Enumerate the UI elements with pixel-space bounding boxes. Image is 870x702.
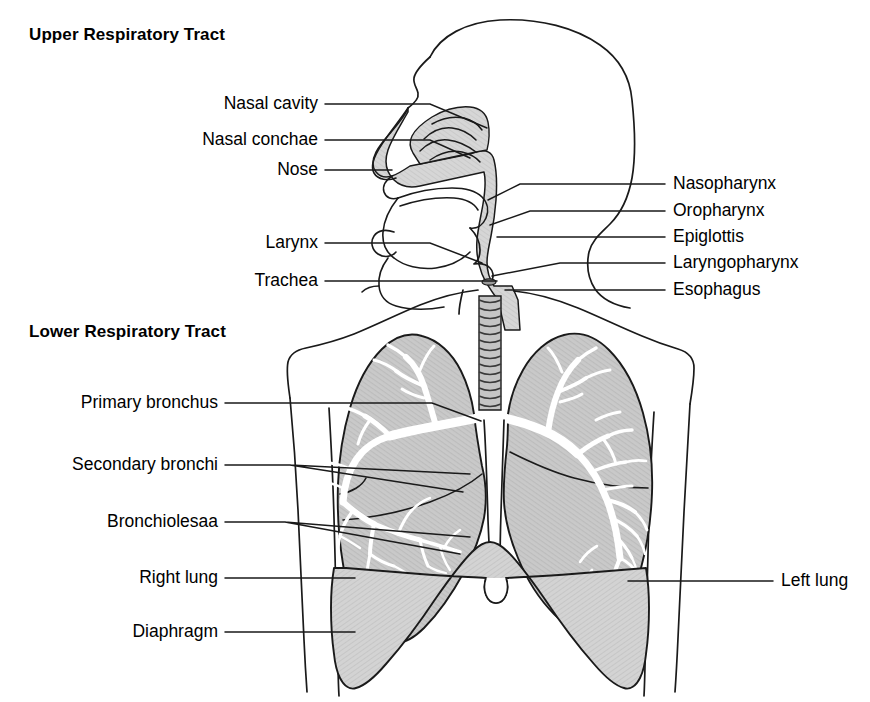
leader-line-nasopharynx — [488, 184, 665, 200]
label-primary-bronchus: Primary bronchus — [81, 394, 218, 412]
trachea — [479, 296, 501, 410]
leader-line-oropharynx — [490, 211, 665, 225]
label-nasal-conchae: Nasal conchae — [202, 131, 318, 149]
label-laryngopharynx: Laryngopharynx — [673, 254, 799, 272]
larynx — [482, 279, 496, 285]
label-diaphragm: Diaphragm — [132, 623, 218, 641]
label-nasopharynx: Nasopharynx — [673, 175, 776, 193]
tongue-and-jaw — [362, 198, 470, 309]
label-esophagus: Esophagus — [673, 281, 761, 299]
section-title-upper-respiratory-tract: Upper Respiratory Tract — [29, 25, 225, 45]
label-nasal-cavity: Nasal cavity — [224, 95, 318, 113]
section-title-lower-respiratory-tract: Lower Respiratory Tract — [29, 322, 226, 342]
respiratory-system-figure — [0, 0, 870, 702]
label-trachea: Trachea — [254, 272, 318, 290]
label-left-lung: Left lung — [781, 572, 848, 590]
label-nose: Nose — [277, 161, 318, 179]
label-bronchioles: Bronchiolesaa — [107, 513, 218, 531]
label-epiglottis: Epiglottis — [673, 228, 744, 246]
diagram-page: Upper Respiratory Tract Lower Respirator… — [0, 0, 870, 702]
leader-line-laryngopharynx — [492, 263, 665, 276]
label-right-lung: Right lung — [139, 569, 218, 587]
label-secondary-bronchi: Secondary bronchi — [72, 456, 218, 474]
palate — [398, 188, 488, 228]
label-oropharynx: Oropharynx — [673, 202, 764, 220]
label-larynx: Larynx — [265, 234, 318, 252]
